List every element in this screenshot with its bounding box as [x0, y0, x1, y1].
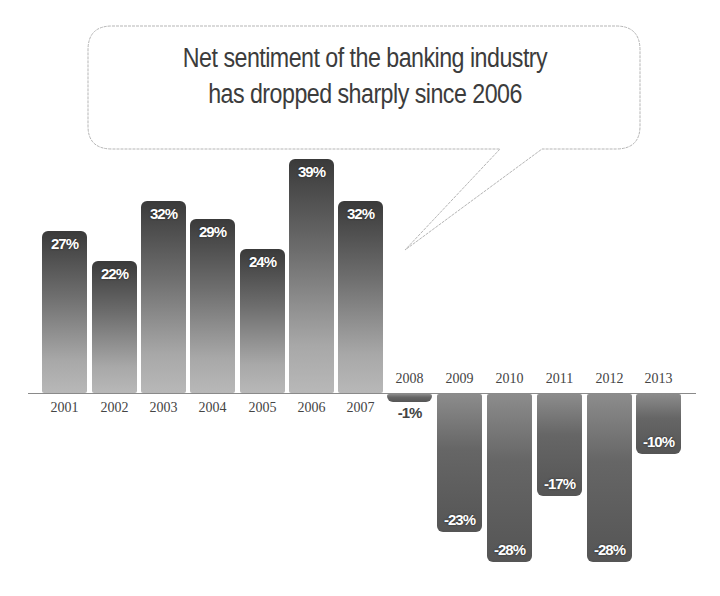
bar-2002: 22% — [92, 261, 137, 393]
bar-value-label: -23% — [437, 511, 482, 528]
bar-2008: -1% — [387, 394, 432, 402]
x-tick-label: 2013 — [634, 371, 684, 387]
bar-2004: 29% — [190, 219, 235, 393]
bar-value-label: -1% — [387, 404, 432, 421]
x-tick-label: 2009 — [435, 371, 485, 387]
x-tick-label: 2008 — [385, 371, 435, 387]
bar-2011: -17% — [537, 394, 582, 496]
x-tick-label: 2001 — [40, 400, 90, 416]
bar-2009: -23% — [437, 394, 482, 532]
x-tick-label: 2007 — [336, 400, 386, 416]
bar-2001: 27% — [42, 231, 87, 393]
bar-2007: 32% — [338, 201, 383, 393]
x-tick-label: 2010 — [485, 371, 535, 387]
bar-value-label: -10% — [636, 433, 681, 450]
bar-2006: 39% — [289, 159, 334, 393]
callout-line-2: has dropped sharply since 2006 — [130, 76, 600, 112]
bar-value-label: -17% — [537, 475, 582, 492]
bar-value-label: -28% — [487, 541, 532, 558]
bar-value-label: 32% — [141, 205, 186, 222]
x-tick-label: 2004 — [188, 400, 238, 416]
bar-2010: -28% — [487, 394, 532, 562]
bar-2005: 24% — [240, 249, 285, 393]
chart-stage: Net sentiment of the banking industry ha… — [0, 0, 720, 596]
callout-text: Net sentiment of the banking industry ha… — [130, 40, 600, 112]
bar-value-label: -28% — [587, 541, 632, 558]
x-tick-label: 2003 — [139, 400, 189, 416]
x-tick-label: 2012 — [585, 371, 635, 387]
x-tick-label: 2006 — [287, 400, 337, 416]
bar-value-label: 39% — [289, 163, 334, 180]
bar-value-label: 27% — [42, 235, 87, 252]
bar-value-label: 29% — [190, 223, 235, 240]
bar-value-label: 24% — [240, 253, 285, 270]
x-tick-label: 2005 — [238, 400, 288, 416]
x-tick-label: 2011 — [535, 371, 585, 387]
bar-value-label: 32% — [338, 205, 383, 222]
bar-2012: -28% — [587, 394, 632, 562]
bar-value-label: 22% — [92, 265, 137, 282]
callout-line-1: Net sentiment of the banking industry — [130, 40, 600, 76]
x-tick-label: 2002 — [90, 400, 140, 416]
bar-2003: 32% — [141, 201, 186, 393]
bar-2013: -10% — [636, 394, 681, 454]
